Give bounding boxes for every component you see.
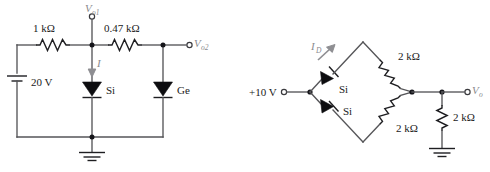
wire-ll-lead-in bbox=[310, 92, 322, 105]
label-resistor-2k-shunt: 2 kΩ bbox=[453, 111, 475, 123]
label-current-i: I bbox=[96, 57, 102, 69]
label-terminal-vo1: V o1 bbox=[85, 2, 100, 17]
label-source-plus10v: +10 V bbox=[249, 86, 277, 98]
label-current-id: I D bbox=[310, 40, 322, 55]
circuit-figure: 1 kΩ 0.47 kΩ 20 V Si Ge I V o1 V o2 bbox=[0, 0, 490, 172]
junction-node-a bbox=[90, 43, 95, 48]
right-circuit: +10 V Si Si 2 kΩ 2 kΩ 2 kΩ I D V o bbox=[249, 40, 483, 157]
diode-si-upper-cathode-bar bbox=[329, 67, 339, 78]
current-arrow-I-head bbox=[88, 69, 96, 77]
label-resistor-1k: 1 kΩ bbox=[33, 22, 55, 34]
junction-node-ground bbox=[90, 135, 95, 140]
wire-top-vertex-to-r-upper bbox=[363, 42, 380, 60]
resistor-2k-upper-symbol bbox=[379, 60, 401, 89]
wire-ul-lead-out bbox=[333, 42, 363, 74]
label-diode-si-left: Si bbox=[106, 84, 115, 96]
schematic-canvas: 1 kΩ 0.47 kΩ 20 V Si Ge I V o1 V o2 bbox=[0, 0, 490, 172]
svg-text:o: o bbox=[479, 90, 483, 99]
diode-si-lower-triangle bbox=[321, 100, 334, 114]
label-diode-ge: Ge bbox=[177, 84, 190, 96]
junction-node-b bbox=[161, 43, 166, 48]
diode-si-upper-triangle bbox=[321, 72, 334, 85]
label-diode-si-upper: Si bbox=[339, 83, 348, 95]
label-resistor-2k-lower: 2 kΩ bbox=[396, 122, 418, 134]
left-circuit: 1 kΩ 0.47 kΩ 20 V Si Ge I V o1 V o2 bbox=[7, 2, 209, 161]
ground-symbol-right bbox=[429, 149, 455, 157]
resistor-047k-symbol bbox=[108, 40, 142, 51]
svg-text:D: D bbox=[315, 46, 322, 55]
label-source-20v: 20 V bbox=[31, 76, 53, 88]
terminal-plus10v[interactable] bbox=[281, 89, 286, 94]
terminal-vo[interactable] bbox=[465, 89, 470, 94]
svg-text:o1: o1 bbox=[92, 8, 100, 17]
resistor-2k-lower-symbol bbox=[379, 95, 401, 124]
resistor-1k-symbol bbox=[36, 40, 70, 51]
wire-ul-lead-in bbox=[310, 79, 322, 92]
resistor-2k-shunt-symbol bbox=[437, 105, 447, 131]
ground-symbol-left bbox=[79, 153, 105, 161]
wire-bottom-vertex-to-r-lower bbox=[363, 124, 380, 142]
diode-si-left-triangle bbox=[83, 82, 102, 96]
label-resistor-2k-upper: 2 kΩ bbox=[398, 50, 420, 62]
label-terminal-vo2: V o2 bbox=[194, 37, 209, 52]
terminal-vo2[interactable] bbox=[187, 42, 192, 47]
label-diode-si-lower: Si bbox=[343, 105, 352, 117]
svg-text:o2: o2 bbox=[201, 43, 209, 52]
label-resistor-047k: 0.47 kΩ bbox=[104, 22, 140, 34]
diode-ge-triangle bbox=[154, 82, 173, 96]
label-terminal-vo-right: V o bbox=[472, 84, 483, 99]
